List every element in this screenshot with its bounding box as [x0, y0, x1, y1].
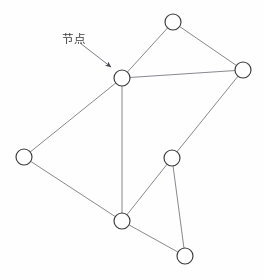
edges-layer [30, 27, 238, 253]
edge-right-mid-right [177, 76, 238, 152]
edge-left-bottom-left [31, 161, 116, 216]
edge-center-right [130, 71, 235, 78]
edge-mid-right-bottom-left [127, 164, 167, 214]
node-top [165, 14, 181, 30]
edge-bottom-left-bottom-right [129, 225, 178, 252]
node-left [16, 149, 32, 165]
node-bottom-right [177, 248, 193, 264]
edge-center-top [127, 28, 167, 72]
graph-canvas [0, 0, 264, 280]
node-mid-right [164, 150, 180, 166]
edge-top-right [180, 27, 237, 66]
network-graph-figure: — —— — ——— —— 节点 [0, 0, 264, 280]
node-center [114, 70, 130, 86]
node-right [235, 62, 251, 78]
node-annotation-label: 节点 [62, 30, 86, 46]
node-bottom-left [114, 213, 130, 229]
annotation-leader-layer [80, 43, 111, 67]
edge-mid-right-bottom-right [173, 166, 184, 248]
edge-center-left [30, 83, 116, 152]
annotation-leader-line [80, 43, 111, 67]
